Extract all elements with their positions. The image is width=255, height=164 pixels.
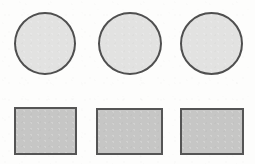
circle-2 [98,12,162,75]
rectangle-2 [96,108,163,155]
rectangle-3 [180,108,244,155]
circle-3 [180,12,243,75]
circle-1 [14,12,76,75]
rectangle-1 [14,107,77,155]
figure-canvas: Row of three circles Row of three rectan… [0,0,255,164]
